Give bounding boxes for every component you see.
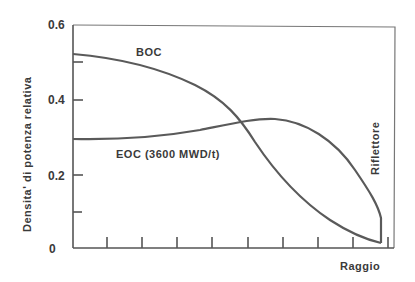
y-tick-label-0.6: 0.6 xyxy=(48,18,65,32)
y-axis-title: Densita' di potenza relativa xyxy=(21,76,33,232)
boc-label: BOC xyxy=(136,46,162,58)
y-tick-label-0.2: 0.2 xyxy=(48,169,65,183)
plot-frame xyxy=(73,25,395,248)
eoc-label: EOC (3600 MWD/t) xyxy=(116,148,220,160)
y-ticks xyxy=(73,62,83,212)
x-ticks xyxy=(107,237,388,248)
reflector-label: Riflettore xyxy=(369,122,381,175)
x-axis-title: Raggio xyxy=(340,260,380,272)
y-tick-label-0.4: 0.4 xyxy=(48,93,65,107)
eoc-curve xyxy=(73,119,381,243)
power-density-chart: 0.6 0.4 0.2 0 Densita' di potenza relati… xyxy=(0,0,415,282)
y-tick-label-0: 0 xyxy=(49,242,56,256)
